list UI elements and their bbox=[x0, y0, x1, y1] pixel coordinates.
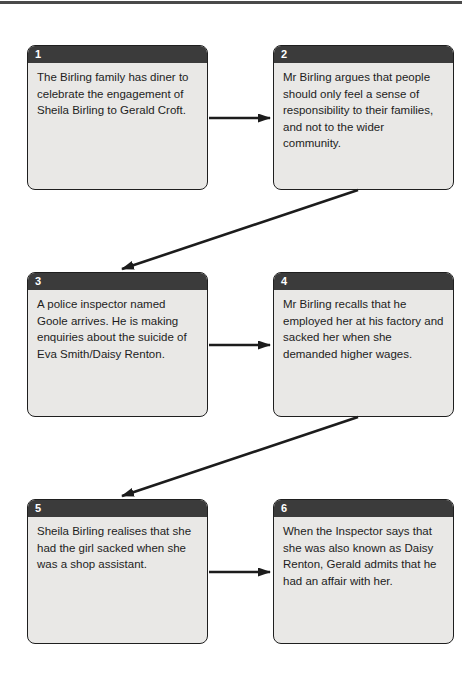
flowchart-canvas: 1 The Birling family has diner to celebr… bbox=[0, 0, 462, 676]
flow-box-4: 4 Mr Birling recalls that he employed he… bbox=[273, 272, 454, 417]
flow-box-1: 1 The Birling family has diner to celebr… bbox=[27, 45, 208, 190]
box-text: Mr Birling argues that people should onl… bbox=[274, 63, 453, 152]
box-text: Sheila Birling realises that she had the… bbox=[28, 517, 207, 573]
box-text: The Birling family has diner to celebrat… bbox=[28, 63, 207, 119]
arrow-2-to-3 bbox=[122, 190, 358, 269]
box-number-badge: 2 bbox=[274, 46, 453, 63]
box-number: 1 bbox=[35, 48, 41, 60]
box-number: 6 bbox=[281, 502, 287, 514]
arrow-4-to-5 bbox=[122, 417, 358, 496]
box-number: 3 bbox=[35, 275, 41, 287]
box-number: 4 bbox=[281, 275, 287, 287]
box-text: A police inspector named Goole arrives. … bbox=[28, 290, 207, 362]
box-number: 2 bbox=[281, 48, 287, 60]
box-number: 5 bbox=[35, 502, 41, 514]
box-number-badge: 5 bbox=[28, 500, 207, 517]
box-number-badge: 6 bbox=[274, 500, 453, 517]
box-number-badge: 1 bbox=[28, 46, 207, 63]
flow-box-3: 3 A police inspector named Goole arrives… bbox=[27, 272, 208, 417]
flow-box-5: 5 Sheila Birling realises that she had t… bbox=[27, 499, 208, 644]
box-number-badge: 3 bbox=[28, 273, 207, 290]
box-text: When the Inspector says that she was als… bbox=[274, 517, 453, 589]
box-text: Mr Birling recalls that he employed her … bbox=[274, 290, 453, 362]
flow-box-6: 6 When the Inspector says that she was a… bbox=[273, 499, 454, 644]
box-number-badge: 4 bbox=[274, 273, 453, 290]
top-rule bbox=[0, 1, 462, 4]
flow-box-2: 2 Mr Birling argues that people should o… bbox=[273, 45, 454, 190]
